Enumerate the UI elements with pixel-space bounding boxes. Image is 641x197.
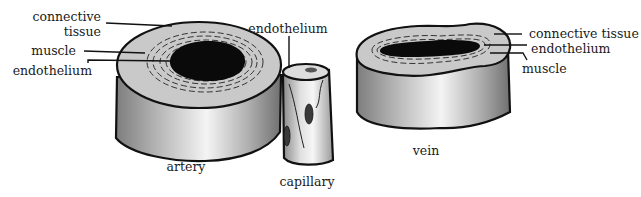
artery-muscle-label: muscle [31, 43, 76, 58]
artery-label: artery [167, 159, 207, 174]
vein-connective-label: connective tissue [529, 26, 639, 41]
vein-label: vein [412, 143, 440, 158]
artery-endothelium-label: endothelium [13, 63, 92, 78]
artery-lumen [170, 41, 245, 81]
capillary-label: capillary [280, 174, 336, 189]
artery-connective-label-line2: tissue [64, 24, 101, 39]
vein-endothelium-label: endothelium [531, 41, 610, 56]
blood-vessels-diagram: connective tissue muscle endothelium art… [0, 0, 641, 197]
artery-illustration [116, 22, 281, 161]
artery-connective-label-line1: connective [32, 9, 101, 24]
vein-illustration [357, 24, 511, 129]
capillary-endothelium-label: endothelium [248, 21, 327, 36]
capillary-illustration [283, 64, 333, 165]
vein-muscle-label: muscle [522, 61, 567, 76]
